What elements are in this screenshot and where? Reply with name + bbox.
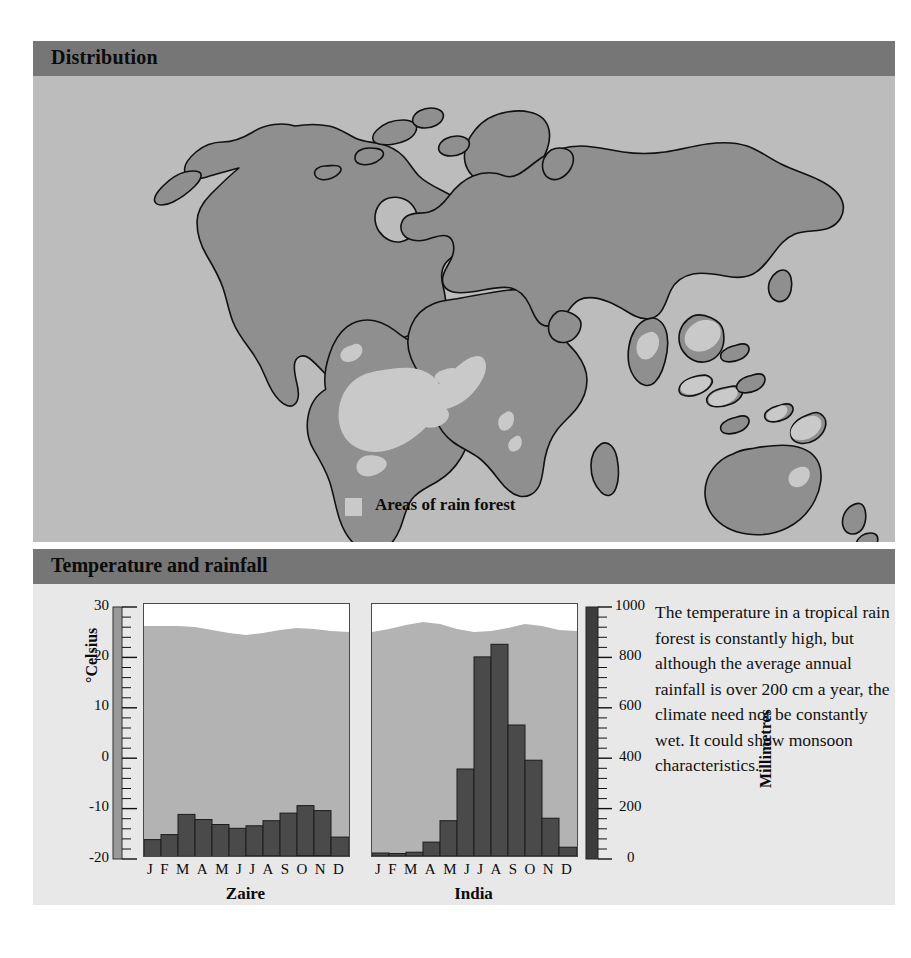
india-month-4: M [443,861,456,878]
sumatra-rain-forest [681,376,711,394]
india-month-labels: J F M A M J J A S O N D [371,861,576,878]
india-chart-svg [372,604,577,856]
india-month-8: S [509,861,517,878]
india-month-9: O [525,861,536,878]
distribution-header-title: Distribution [51,46,158,69]
celsius-tick-1: 20 [73,647,109,664]
celsius-tick-5: -20 [69,849,109,866]
zaire-chart-plot [143,603,350,857]
zaire-month-1: F [160,861,168,878]
mm-tick-4: 200 [619,798,642,815]
temperature-header-title: Temperature and rainfall [51,554,268,577]
arctic-island-2 [413,108,444,128]
alaska-peninsula [154,171,201,205]
australia-landmass [705,445,821,535]
distribution-header-bar: Distribution [33,41,895,76]
zaire-month-3: A [197,861,208,878]
world-map-panel [33,76,895,542]
india-month-10: N [543,861,554,878]
india-month-6: J [477,861,483,878]
new-zealand-south [856,533,877,542]
japan-islands [768,270,791,302]
new-zealand-north [842,503,865,534]
zaire-month-11: D [333,861,344,878]
arabian-peninsula [548,311,581,343]
india-chart-plot [371,603,578,857]
india-month-0: J [375,861,381,878]
celsius-tick-4: -10 [69,798,109,815]
zaire-month-0: J [147,861,153,878]
page-root: Distribution [0,0,911,958]
celsius-tick-2: 10 [73,697,109,714]
legend-label: Areas of rain forest [375,495,516,515]
mm-tick-1: 800 [619,647,642,664]
celsius-tick-3: 0 [73,748,109,765]
mm-tick-2: 600 [619,697,642,714]
description-paragraph: The temperature in a tropical rain fores… [655,600,891,779]
india-month-2: M [404,861,417,878]
zaire-month-2: M [176,861,189,878]
zaire-month-5: J [236,861,242,878]
zaire-month-8: S [281,861,289,878]
india-month-11: D [561,861,572,878]
mm-tick-5: 0 [627,849,635,866]
world-map-svg [33,76,895,542]
mm-tick-0: 1000 [615,597,645,614]
india-chart-title: India [371,884,576,904]
zaire-month-labels: J F M A M J J A S O N D [143,861,348,878]
zaire-month-4: M [215,861,228,878]
india-month-7: A [490,861,501,878]
zaire-month-10: N [315,861,326,878]
arctic-island-1 [373,120,417,145]
celsius-tick-0: 30 [73,597,109,614]
mm-tick-3: 400 [619,748,642,765]
india-month-3: A [425,861,436,878]
madagascar-landmass [591,443,618,496]
zaire-month-9: O [297,861,308,878]
temperature-header-bar: Temperature and rainfall [33,549,895,584]
celsius-axis: °Celsius [75,603,143,873]
zaire-chart-title: Zaire [143,884,348,904]
rain-forest-swatch-icon [345,498,362,516]
java-island [721,416,749,434]
india-month-1: F [388,861,396,878]
india-month-5: J [464,861,470,878]
zaire-chart-svg [144,604,349,856]
philippines-island [721,344,749,362]
zaire-month-7: A [262,861,273,878]
zaire-month-6: J [249,861,255,878]
sulawesi-island [737,374,765,393]
map-legend: Areas of rain forest [345,495,645,521]
